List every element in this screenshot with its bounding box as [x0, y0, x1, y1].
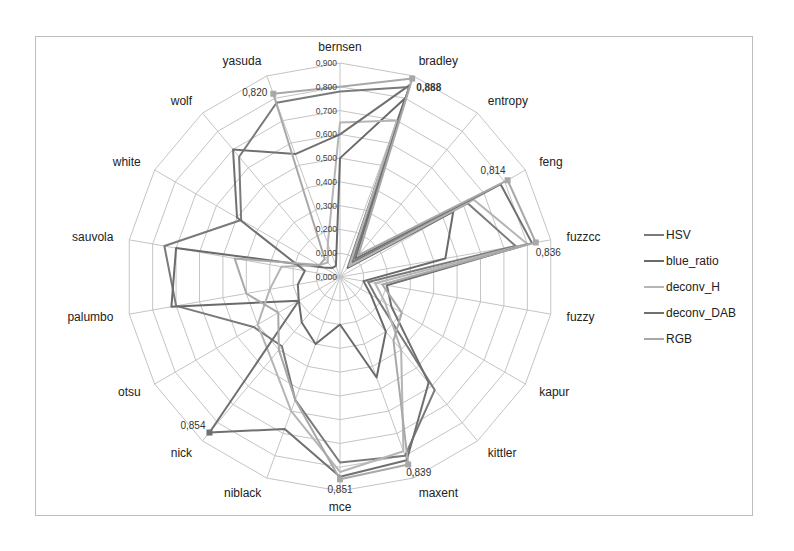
legend-swatch [644, 234, 664, 236]
axis-label-kapur: kapur [539, 385, 569, 399]
tick-label: 0,000 [316, 272, 338, 282]
legend-label: deconv_DAB [666, 306, 736, 320]
legend-label: blue_ratio [666, 254, 719, 268]
tick-label: 0,400 [316, 177, 338, 187]
value-label: 0,814 [481, 165, 506, 176]
data-marker [337, 476, 343, 482]
legend: HSV blue_ratio deconv_H deconv_DAB RGB [644, 222, 736, 352]
tick-label: 0,100 [316, 248, 338, 258]
series-line-rgb [235, 79, 536, 480]
axis-label-otsu: otsu [118, 385, 141, 399]
axis-label-sauvola: sauvola [72, 230, 114, 244]
axis-label-nick: nick [171, 446, 193, 460]
tick-label: 0,200 [316, 224, 338, 234]
axis-label-bradley: bradley [419, 54, 458, 68]
axis-label-feng: feng [539, 155, 562, 169]
legend-item-deconv-h: deconv_H [644, 274, 736, 300]
legend-item-deconv-dab: deconv_DAB [644, 300, 736, 326]
axis-label-maxent: maxent [419, 486, 459, 500]
legend-item-rgb: RGB [644, 326, 736, 352]
axis-label-fuzzcc: fuzzcc [567, 230, 601, 244]
axis-label-fuzzy: fuzzy [567, 310, 595, 324]
legend-label: RGB [666, 332, 692, 346]
legend-item-blue-ratio: blue_ratio [644, 248, 736, 274]
legend-item-hsv: HSV [644, 222, 736, 248]
value-label: 0,836 [536, 247, 561, 258]
data-marker [533, 239, 539, 245]
legend-swatch [644, 338, 664, 340]
data-marker [206, 430, 212, 436]
legend-swatch [644, 312, 664, 314]
tick-label: 0,500 [316, 153, 338, 163]
axis-label-kittler: kittler [488, 446, 517, 460]
axis-label-mce: mce [329, 500, 352, 514]
axis-label-niblack: niblack [224, 486, 262, 500]
tick-labels: 0,0000,1000,2000,3000,4000,5000,6000,700… [316, 58, 338, 282]
legend-label: deconv_H [666, 280, 720, 294]
tick-label: 0,700 [316, 106, 338, 116]
legend-label: HSV [666, 228, 691, 242]
value-label: 0,839 [406, 467, 431, 478]
tick-label: 0,600 [316, 129, 338, 139]
tick-label: 0,800 [316, 82, 338, 92]
axis-label-bernsen: bernsen [318, 40, 361, 54]
legend-swatch [644, 286, 664, 288]
value-label: 0,888 [416, 82, 441, 93]
series-line-blue-ratio [171, 98, 453, 377]
value-label: 0,854 [180, 420, 205, 431]
axis-label-entropy: entropy [488, 94, 528, 108]
tick-label: 0,300 [316, 201, 338, 211]
data-marker [409, 76, 415, 82]
data-marker [505, 177, 511, 183]
axis-label-white: white [112, 155, 141, 169]
tick-label: 0,900 [316, 58, 338, 68]
data-marker [270, 91, 276, 97]
value-label: 0,820 [242, 87, 267, 98]
axis-label-palumbo: palumbo [67, 310, 113, 324]
axis-label-yasuda: yasuda [223, 54, 262, 68]
axis-label-wolf: wolf [170, 94, 193, 108]
value-label: 0,851 [327, 484, 352, 495]
legend-swatch [644, 260, 664, 262]
